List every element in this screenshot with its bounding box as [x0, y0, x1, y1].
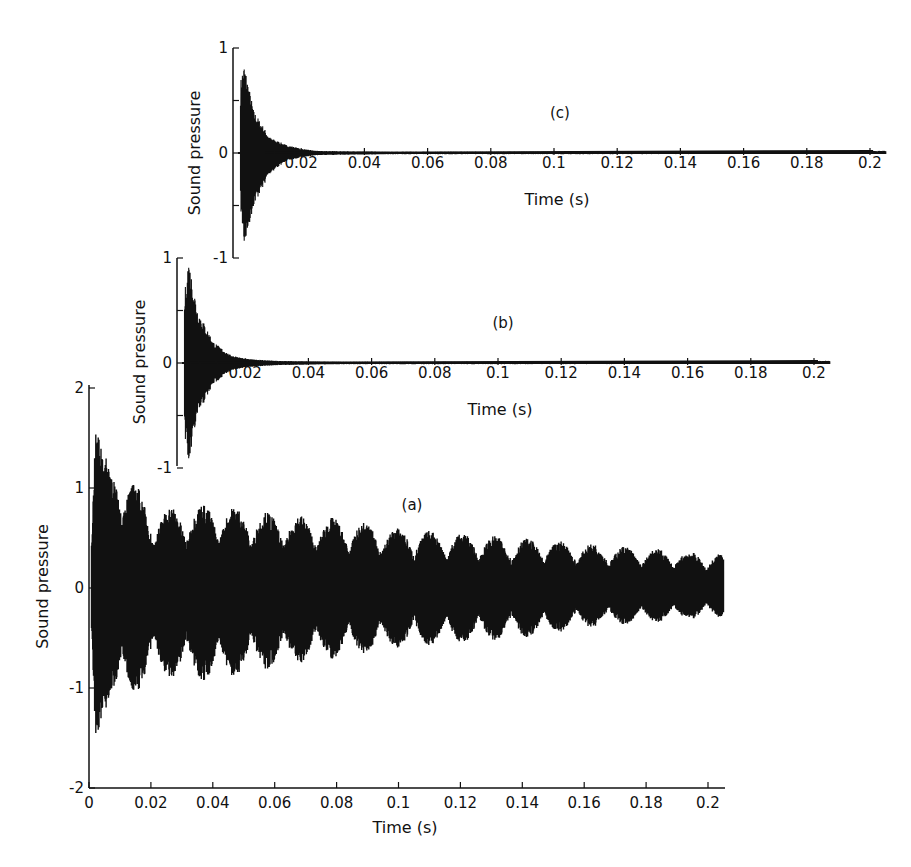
x-tick-label: 0.1 — [486, 364, 510, 382]
x-tick-label: 0.04 — [196, 794, 229, 812]
y-tick-label: 1 — [74, 479, 84, 497]
x-axis-title: Time (s) — [523, 190, 589, 209]
y-tick-label: 0 — [162, 354, 172, 372]
x-tick-label: 0.02 — [134, 794, 167, 812]
y-tick-label: 0 — [74, 579, 84, 597]
x-tick-label: 0.12 — [600, 154, 633, 172]
x-tick-label: 0.2 — [858, 154, 882, 172]
x-tick-label: 0.04 — [292, 364, 325, 382]
y-tick-label: -2 — [69, 779, 84, 797]
x-tick-label: 0.2 — [696, 794, 720, 812]
x-tick-label: 0.16 — [567, 794, 600, 812]
x-tick-label: 0.14 — [664, 154, 697, 172]
x-axis-title: Time (s) — [371, 818, 437, 837]
waveform-trace — [92, 435, 724, 733]
x-tick-label: 0.08 — [474, 154, 507, 172]
x-tick-label: 0.18 — [629, 794, 662, 812]
y-tick-label: 2 — [74, 379, 84, 397]
y-tick-label: 0 — [218, 144, 228, 162]
x-tick-label: 0.16 — [727, 154, 760, 172]
panel-label: (c) — [550, 104, 570, 122]
x-tick-label: 0.18 — [790, 154, 823, 172]
waveform-figure: -1010.020.040.060.080.10.120.140.160.180… — [0, 0, 911, 867]
x-tick-label: 0.18 — [734, 364, 767, 382]
y-tick-label: -1 — [69, 679, 84, 697]
x-tick-label: 0.1 — [387, 794, 411, 812]
x-tick-label: 0.12 — [544, 364, 577, 382]
x-tick-label: 0.1 — [542, 154, 566, 172]
y-tick-label: 1 — [162, 249, 172, 267]
x-tick-label: 0.06 — [411, 154, 444, 172]
y-axis-title: Sound pressure — [130, 300, 149, 425]
y-tick-label: -1 — [213, 249, 228, 267]
x-tick-label: 0.08 — [320, 794, 353, 812]
y-tick-label: 1 — [218, 39, 228, 57]
x-tick-label: 0.16 — [671, 364, 704, 382]
x-tick-label: 0.14 — [608, 364, 641, 382]
panel-b: -1010.020.040.060.080.10.120.140.160.180… — [130, 249, 830, 477]
x-tick-label: 0 — [84, 794, 94, 812]
x-axis-title: Time (s) — [466, 400, 532, 419]
x-tick-label: 0.06 — [355, 364, 388, 382]
x-tick-label: 0.12 — [444, 794, 477, 812]
panel-label: (b) — [492, 314, 513, 332]
x-tick-label: 0.2 — [802, 364, 826, 382]
y-axis-title: Sound pressure — [185, 91, 204, 216]
y-tick-label: -1 — [157, 459, 172, 477]
panel-label: (a) — [402, 496, 423, 514]
x-tick-label: 0.06 — [258, 794, 291, 812]
x-tick-label: 0.08 — [418, 364, 451, 382]
y-axis-title: Sound pressure — [33, 524, 52, 649]
x-tick-label: 0.04 — [348, 154, 381, 172]
panel-a: -2-101200.020.040.060.080.10.120.140.160… — [33, 379, 725, 837]
panel-c: -1010.020.040.060.080.10.120.140.160.180… — [185, 39, 886, 267]
x-tick-label: 0.14 — [506, 794, 539, 812]
